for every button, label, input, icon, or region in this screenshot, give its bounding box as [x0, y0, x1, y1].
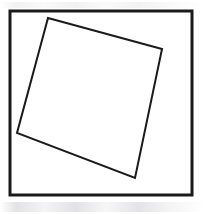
scan-artifact-top	[0, 2, 204, 8]
geometry-figure	[0, 0, 204, 214]
scan-artifact-bottom	[0, 202, 204, 212]
figure-canvas	[0, 0, 204, 214]
